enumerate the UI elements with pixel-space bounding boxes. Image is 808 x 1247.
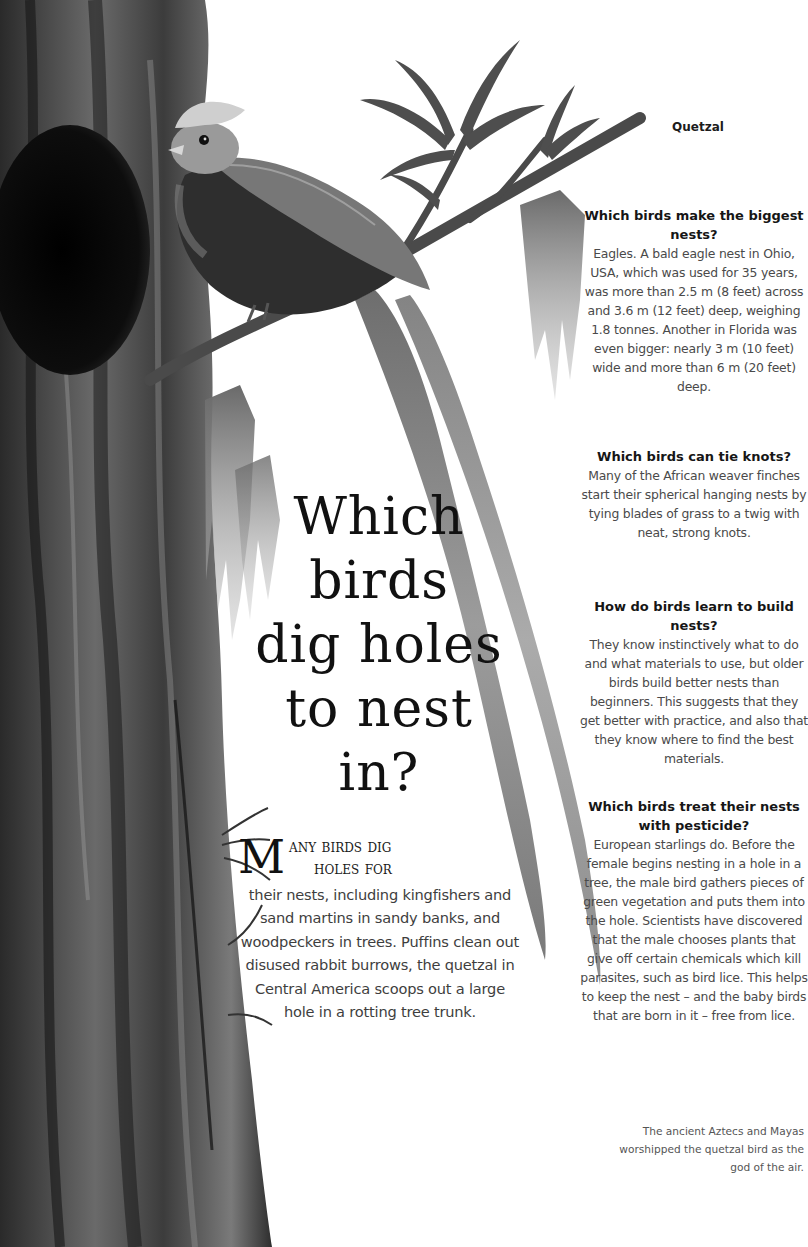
qa-question: How do birds learn to build nests? [580,597,808,635]
qa-learn-build: How do birds learn to build nests? They … [580,597,808,768]
intro-lead-line: any birds dig [289,836,391,856]
qa-answer: Eagles. A bald eagle nest in Ohio, USA, … [580,244,808,396]
caption-aztecs: The ancient Aztecs and Mayas worshipped … [612,1122,804,1176]
caption-quetzal: Quetzal [628,120,768,134]
page-title: Which birds dig holes to nest in? [234,484,524,804]
title-line: to nest [285,678,473,738]
title-line: dig holes [255,614,503,674]
qa-question: Which birds treat their nests with pesti… [580,797,808,835]
qa-tie-knots: Which birds can tie knots? Many of the A… [580,447,808,542]
drop-cap: M [238,837,285,877]
qa-question: Which birds make the biggest nests? [580,206,808,244]
intro-paragraph: M any birds dig holes for their nests, i… [240,835,520,1023]
qa-answer: They know instinctively what to do and w… [580,635,808,768]
intro-lead: M any birds dig holes for [240,835,520,879]
qa-question: Which birds can tie knots? [580,447,808,466]
title-line: Which [293,486,464,546]
title-line: in? [339,742,420,802]
qa-answer: European starlings do. Before the female… [580,835,808,1025]
title-line: birds [309,550,449,610]
qa-answer: Many of the African weaver finches start… [580,466,808,542]
intro-lead-line: holes for [280,857,520,879]
qa-pesticide: Which birds treat their nests with pesti… [580,797,808,1025]
intro-body: their nests, including kingfishers and s… [240,883,520,1023]
qa-biggest-nests: Which birds make the biggest nests? Eagl… [580,206,808,396]
bromeliad-foliage [360,40,600,210]
